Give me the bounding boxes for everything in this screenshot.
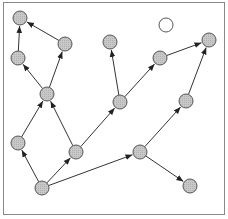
edge-F-to-G xyxy=(125,64,155,97)
edge-D-to-B xyxy=(49,52,62,88)
node-B xyxy=(58,37,72,51)
graph-canvas xyxy=(0,0,228,219)
node-G xyxy=(153,51,167,65)
node-F xyxy=(113,95,127,109)
edge-N-to-M xyxy=(49,155,133,186)
edge-M-to-L xyxy=(145,107,181,147)
node-H xyxy=(202,33,216,47)
edge-D-to-C xyxy=(23,64,43,88)
edge-N-to-J xyxy=(22,150,39,182)
edge-L-to-H xyxy=(188,47,206,94)
node-D xyxy=(40,87,54,101)
edge-G-to-H xyxy=(167,43,202,56)
node-E xyxy=(103,35,117,49)
node-C xyxy=(11,51,25,65)
edge-K-to-D xyxy=(51,101,73,146)
edge-F-to-E xyxy=(111,50,119,95)
node-K xyxy=(69,145,83,159)
node-J xyxy=(11,136,25,150)
node-A xyxy=(13,11,27,25)
node-M xyxy=(133,145,147,159)
node-I-empty xyxy=(159,18,173,32)
edge-K-to-F xyxy=(81,108,115,147)
edge-C-to-A xyxy=(18,26,19,51)
node-N xyxy=(35,181,49,195)
edge-B-to-A xyxy=(27,22,59,40)
node-L xyxy=(179,94,193,108)
node-O xyxy=(183,179,197,193)
edge-M-to-O xyxy=(146,156,184,182)
edge-J-to-D xyxy=(22,101,43,137)
